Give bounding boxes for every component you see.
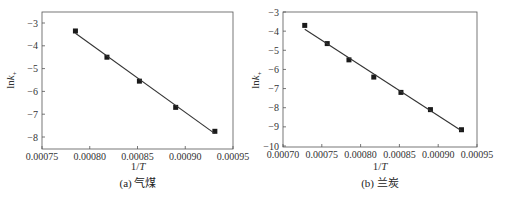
x-axis-label: 1/T [373,160,389,172]
x-tick-label: 0.00085 [383,149,416,160]
plot-frame [283,12,477,147]
panel-caption: (a) 气煤 [120,176,157,190]
x-tick-label: 0.00090 [422,149,455,160]
y-tick-label: −4 [268,26,279,37]
x-tick-label: 0.00095 [217,151,250,162]
y-tick-label: −3 [27,18,38,29]
y-tick-label: −6 [27,86,38,97]
y-tick-label: −5 [27,63,38,74]
y-tick-label: −7 [268,83,279,94]
y-axis-label: lnk+ [249,71,264,88]
data-point-square [73,28,78,33]
panel-caption: (b) 兰炭 [361,177,399,190]
x-tick-label: 0.00075 [306,149,339,160]
y-tick-label: −10 [263,141,279,152]
x-tick-label: 0.00090 [169,151,202,162]
chart-panel-a: 0.000750.000800.000850.000900.00095−3−4−… [4,12,249,190]
x-tick-label: 0.00080 [74,151,107,162]
x-tick-label: 0.00080 [344,149,377,160]
x-axis-label: 1/T [131,160,147,172]
y-tick-label: −5 [268,45,279,56]
chart-panel-b: 0.000700.000750.000800.000850.000900.000… [249,7,493,191]
data-point-square [302,23,307,28]
fit-line [75,33,214,133]
y-tick-label: −4 [27,40,38,51]
x-tick-label: 0.00095 [461,149,494,160]
y-tick-label: −3 [268,7,279,18]
y-axis-label: lnk+ [4,71,19,88]
y-tick-label: −8 [27,132,38,143]
y-tick-label: −9 [268,121,279,132]
fit-line [305,29,462,130]
y-tick-label: −8 [268,102,279,113]
x-tick-label: 0.00075 [26,151,59,162]
y-tick-label: −6 [268,64,279,75]
figure: 0.000750.000800.000850.000900.00095−3−4−… [0,0,505,202]
y-tick-label: −7 [27,109,38,120]
